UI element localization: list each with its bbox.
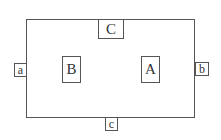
box-bottom-edge-c: c (105, 117, 118, 131)
box-inner-A: A (141, 56, 160, 83)
box-inner-B: B (62, 56, 81, 83)
box-top-C: C (98, 19, 124, 39)
box-left-edge-a: a (14, 63, 27, 77)
box-right-edge-b: b (195, 62, 209, 76)
